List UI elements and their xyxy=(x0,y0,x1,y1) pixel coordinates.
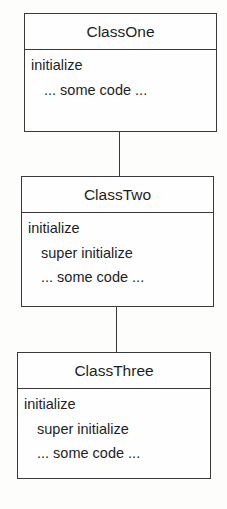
connector-line xyxy=(116,306,117,353)
class-name: ClassOne xyxy=(25,14,216,50)
class-methods: initialize super initialize ... some cod… xyxy=(22,213,213,290)
method-line: initialize xyxy=(28,216,213,241)
method-line: super initialize xyxy=(24,417,210,442)
method-line: ... some code ... xyxy=(31,78,216,103)
class-methods: initialize super initialize ... some cod… xyxy=(18,389,210,466)
class-box-two: ClassTwo initialize super initialize ...… xyxy=(21,176,214,307)
connector-line xyxy=(119,131,120,177)
class-name: ClassTwo xyxy=(22,177,213,213)
method-line: ... some code ... xyxy=(28,265,213,290)
method-line: ... some code ... xyxy=(24,441,210,466)
method-line: initialize xyxy=(31,53,216,78)
class-methods: initialize ... some code ... xyxy=(25,50,216,102)
class-box-three: ClassThree initialize super initialize .… xyxy=(17,352,211,479)
class-box-one: ClassOne initialize ... some code ... xyxy=(24,13,217,132)
method-line: initialize xyxy=(24,392,210,417)
method-line: super initialize xyxy=(28,241,213,266)
class-name: ClassThree xyxy=(18,353,210,389)
